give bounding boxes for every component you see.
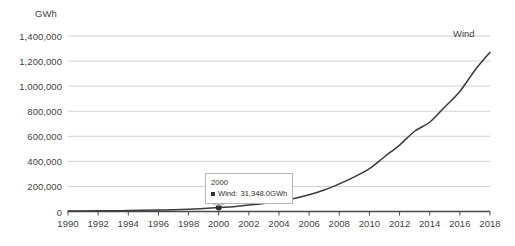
x-axis-tick-label: 2018 (479, 218, 500, 229)
tooltip-year: 2000 (211, 177, 287, 188)
x-axis-tick-label: 2012 (389, 218, 410, 229)
x-axis-tick-label: 2008 (329, 218, 350, 229)
plot-area (0, 0, 515, 246)
x-axis-tick-label: 2010 (359, 218, 380, 229)
x-axis-tick-label: 2006 (298, 218, 319, 229)
x-axis-tick-label: 2014 (419, 218, 440, 229)
wind-generation-line-chart: GWh 0200,000400,000600,000800,0001,000,0… (0, 0, 515, 246)
x-axis-tick-label: 2000 (208, 218, 229, 229)
x-axis-tick-label: 2004 (268, 218, 289, 229)
x-axis-tick-label: 1992 (87, 218, 108, 229)
x-axis-tick-label: 1994 (118, 218, 139, 229)
gridlines (68, 36, 490, 186)
series-label-wind: Wind (453, 28, 475, 39)
tooltip-series-name: Wind: (218, 188, 237, 199)
x-axis-tick-label: 2002 (238, 218, 259, 229)
tooltip-series-marker-icon (211, 192, 215, 196)
data-tooltip: 2000 Wind: 31,348.0GWh (205, 173, 293, 204)
tooltip-series-value: 31,348.0GWh (240, 188, 287, 199)
x-axis-tick-label: 1990 (57, 218, 78, 229)
x-axis-tick-label: 1998 (178, 218, 199, 229)
tooltip-value-row: Wind: 31,348.0GWh (211, 188, 287, 199)
x-axis-tick-label: 2016 (449, 218, 470, 229)
x-axis-tick-label: 1996 (148, 218, 169, 229)
